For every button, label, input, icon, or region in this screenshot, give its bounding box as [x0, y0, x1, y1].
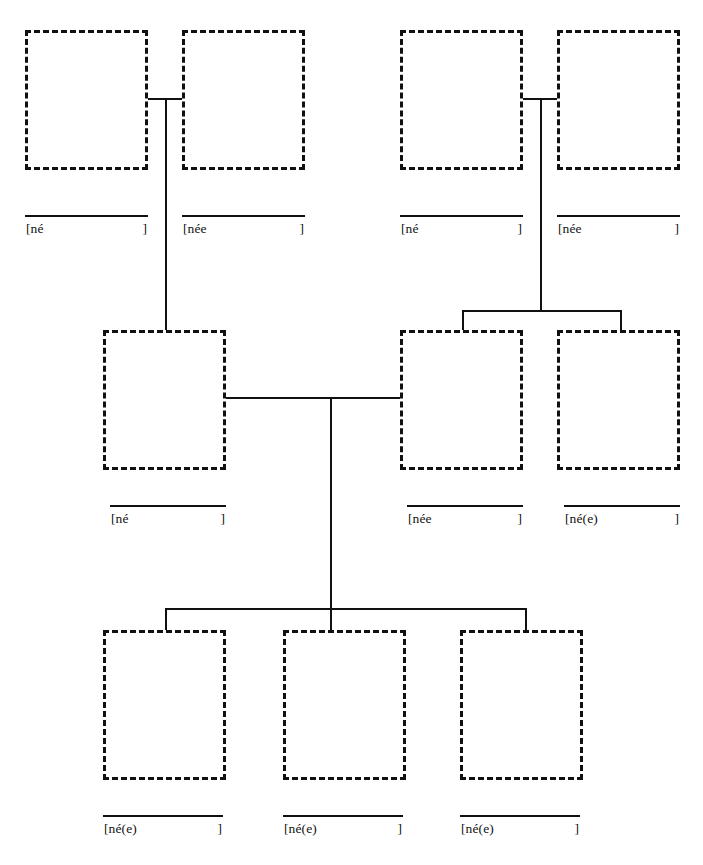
name-rule-paternal-grandfather[interactable] — [25, 215, 148, 217]
name-rule-aunt-or-uncle[interactable] — [564, 505, 680, 507]
person-box-paternal-grandmother[interactable] — [182, 30, 305, 170]
name-rule-child-2[interactable] — [283, 815, 403, 817]
born-label-child-1: [né(e)] — [103, 821, 223, 836]
paternal-descent-line — [165, 98, 167, 330]
born-label-close-child-1: ] — [217, 821, 223, 836]
person-box-maternal-grandmother[interactable] — [557, 30, 680, 170]
person-box-maternal-grandfather[interactable] — [400, 30, 523, 170]
born-label-maternal-grandfather: [né] — [400, 221, 523, 236]
children-bracket-drop-1 — [165, 608, 167, 630]
born-label-open-paternal-grandmother: [née — [182, 221, 207, 236]
born-label-paternal-grandmother: [née] — [182, 221, 305, 236]
born-label-close-maternal-grandmother: ] — [674, 221, 680, 236]
name-rule-paternal-grandmother[interactable] — [182, 215, 305, 217]
children-bracket-drop-2 — [330, 608, 332, 630]
parents-descent-line — [330, 397, 332, 608]
children-bracket-drop-3 — [525, 608, 527, 630]
born-label-open-father: [né — [110, 511, 129, 526]
name-rule-child-1[interactable] — [103, 815, 223, 817]
name-rule-maternal-grandmother[interactable] — [557, 215, 680, 217]
maternal-descent-line — [540, 98, 542, 310]
born-label-close-paternal-grandfather: ] — [142, 221, 148, 236]
born-label-open-maternal-grandmother: [née — [557, 221, 582, 236]
person-box-aunt-or-uncle[interactable] — [557, 330, 680, 470]
born-label-mother: [née] — [407, 511, 523, 526]
born-label-father: [né] — [110, 511, 226, 526]
name-rule-child-3[interactable] — [460, 815, 580, 817]
born-label-aunt-or-uncle: [né(e)] — [564, 511, 680, 526]
maternal-siblings-bracket-drop-1 — [462, 310, 464, 330]
children-bracket-bar — [165, 608, 525, 610]
name-rule-maternal-grandfather[interactable] — [400, 215, 523, 217]
born-label-maternal-grandmother: [née] — [557, 221, 680, 236]
born-label-paternal-grandfather: [né] — [25, 221, 148, 236]
born-label-open-mother: [née — [407, 511, 432, 526]
born-label-open-child-2: [né(e) — [283, 821, 317, 836]
born-label-open-child-1: [né(e) — [103, 821, 137, 836]
born-label-close-paternal-grandmother: ] — [299, 221, 305, 236]
born-label-open-maternal-grandfather: [né — [400, 221, 419, 236]
born-label-close-maternal-grandfather: ] — [517, 221, 523, 236]
family-tree-sheet: [né][née][né][née][né][née][né(e)][né(e)… — [0, 0, 703, 865]
person-box-child-3[interactable] — [460, 630, 583, 780]
person-box-child-2[interactable] — [283, 630, 406, 780]
maternal-siblings-bracket-drop-2 — [620, 310, 622, 330]
born-label-open-paternal-grandfather: [né — [25, 221, 44, 236]
parents-marriage-line — [226, 397, 400, 399]
born-label-close-child-2: ] — [397, 821, 403, 836]
maternal-siblings-bracket-bar — [462, 310, 620, 312]
person-box-child-1[interactable] — [103, 630, 226, 780]
born-label-close-child-3: ] — [574, 821, 580, 836]
name-rule-father[interactable] — [110, 505, 226, 507]
born-label-close-mother: ] — [517, 511, 523, 526]
person-box-father[interactable] — [103, 330, 226, 470]
born-label-open-aunt-or-uncle: [né(e) — [564, 511, 598, 526]
born-label-close-aunt-or-uncle: ] — [674, 511, 680, 526]
name-rule-mother[interactable] — [407, 505, 523, 507]
born-label-child-3: [né(e)] — [460, 821, 580, 836]
born-label-close-father: ] — [220, 511, 226, 526]
born-label-open-child-3: [né(e) — [460, 821, 494, 836]
born-label-child-2: [né(e)] — [283, 821, 403, 836]
person-box-paternal-grandfather[interactable] — [25, 30, 148, 170]
person-box-mother[interactable] — [400, 330, 523, 470]
